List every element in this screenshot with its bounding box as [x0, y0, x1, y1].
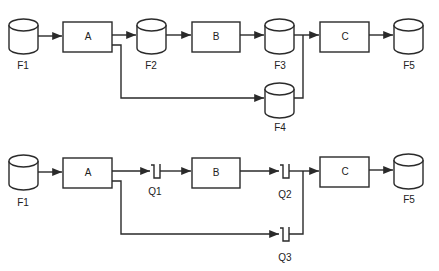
- bottom-process-b: B: [192, 158, 240, 188]
- top-label-f1: F1: [17, 60, 29, 71]
- top-file-f2: F2: [137, 19, 166, 71]
- bottom-queue-q3: Q3: [278, 227, 292, 263]
- bottom-label-a: A: [85, 167, 92, 178]
- cylinder-top: [265, 19, 294, 31]
- bottom-connector-q3-c: [289, 171, 303, 234]
- bottom-label-f5: F5: [403, 194, 415, 205]
- bottom-queue-q1: Q1: [148, 164, 162, 197]
- queue-icon: [280, 164, 289, 178]
- top-label-a: A: [85, 31, 92, 42]
- bottom-process-c: C: [320, 157, 369, 187]
- cylinder-top: [9, 155, 38, 167]
- top-file-f3: F3: [265, 19, 294, 71]
- cylinder-top: [394, 154, 423, 166]
- queue-icon: [151, 164, 160, 178]
- top-process-c: C: [320, 22, 369, 52]
- top-diagram: F1 A F2 B F3: [9, 19, 423, 133]
- bottom-file-f5: F5: [394, 154, 423, 205]
- cylinder-top: [9, 19, 38, 31]
- cylinder-top: [265, 83, 294, 95]
- bottom-queue-q2: Q2: [278, 164, 292, 200]
- top-label-f2: F2: [145, 60, 157, 71]
- queue-icon: [280, 227, 289, 241]
- top-file-f5: F5: [394, 19, 423, 71]
- bottom-arrow-a-q3: [112, 181, 279, 234]
- top-connector-f4-c: [294, 35, 303, 98]
- bottom-label-q1: Q1: [148, 186, 162, 197]
- bottom-diagram: F1 A Q1 B Q2 C: [9, 154, 423, 263]
- bottom-label-c: C: [341, 166, 348, 177]
- top-label-f4: F4: [274, 122, 286, 133]
- diagram-canvas: F1 A F2 B F3: [0, 0, 439, 271]
- top-process-a: A: [63, 22, 112, 52]
- top-arrow-a-f4: [112, 45, 264, 98]
- top-file-f1: F1: [9, 19, 38, 71]
- top-label-f5: F5: [403, 60, 415, 71]
- bottom-label-q2: Q2: [278, 189, 292, 200]
- cylinder-top: [394, 19, 423, 31]
- bottom-label-f1: F1: [17, 197, 29, 208]
- bottom-label-q3: Q3: [278, 252, 292, 263]
- bottom-process-a: A: [63, 158, 112, 188]
- bottom-label-b: B: [213, 167, 220, 178]
- top-file-f4: F4: [265, 83, 294, 133]
- cylinder-top: [137, 19, 166, 31]
- bottom-file-f1: F1: [9, 155, 38, 208]
- top-label-f3: F3: [274, 60, 286, 71]
- top-process-b: B: [192, 22, 240, 52]
- top-label-c: C: [341, 31, 348, 42]
- top-label-b: B: [213, 31, 220, 42]
